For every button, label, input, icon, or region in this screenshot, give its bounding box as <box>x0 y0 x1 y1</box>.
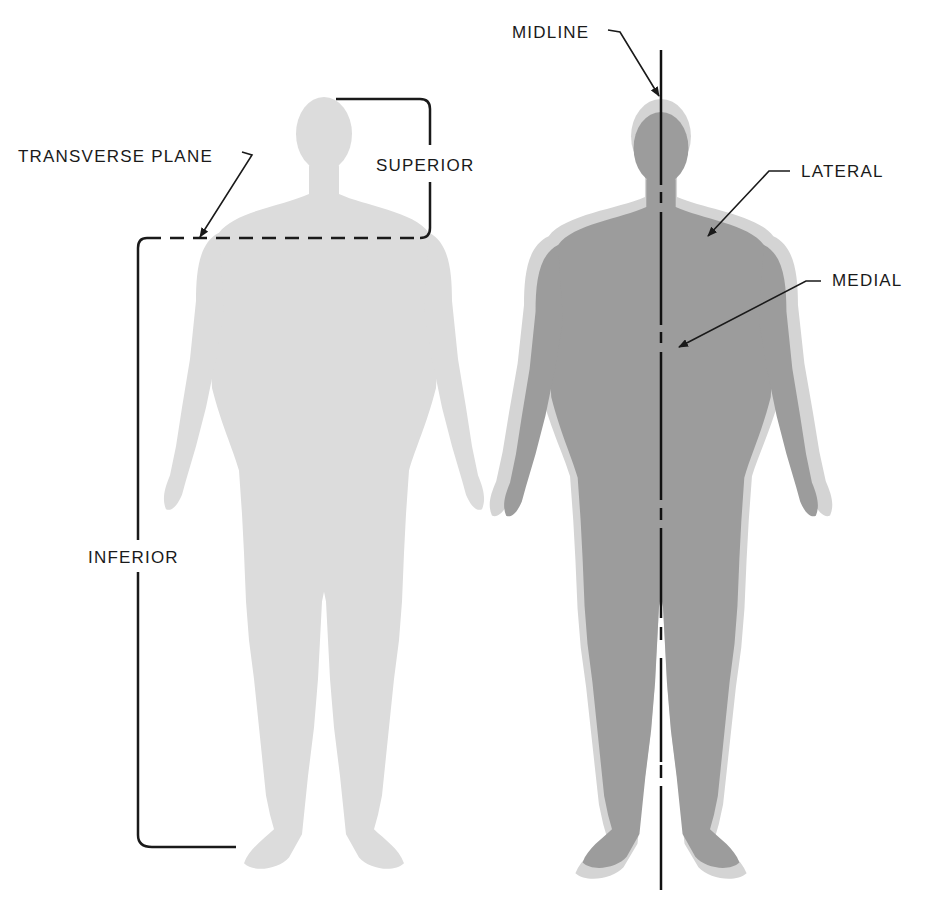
inferior-label: INFERIOR <box>88 549 179 566</box>
lateral-label: LATERAL <box>801 163 884 180</box>
diagram-artwork <box>0 0 930 903</box>
midline-leader <box>608 30 659 96</box>
left-body-figure <box>164 97 484 869</box>
transverse-plane-label: TRANSVERSE PLANE <box>18 148 213 165</box>
superior-label: SUPERIOR <box>376 157 474 174</box>
anatomy-diagram: TRANSVERSE PLANE SUPERIOR INFERIOR MIDLI… <box>0 0 930 903</box>
midline-label: MIDLINE <box>512 24 589 41</box>
medial-label: MEDIAL <box>832 272 903 289</box>
